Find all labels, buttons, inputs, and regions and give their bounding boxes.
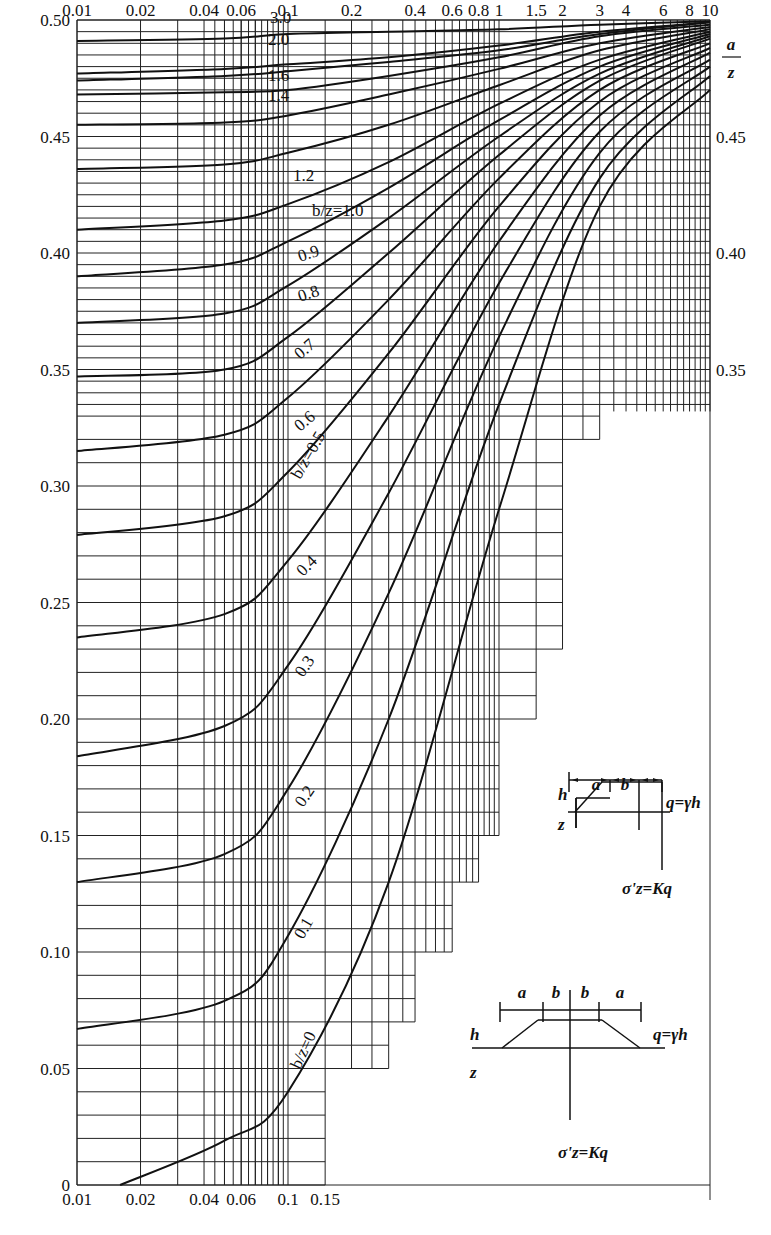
svg-text:0.35: 0.35 xyxy=(40,361,70,380)
svg-text:0.05: 0.05 xyxy=(40,1060,70,1079)
svg-text:0.04: 0.04 xyxy=(189,1190,219,1209)
svg-text:0.06: 0.06 xyxy=(226,1,256,20)
svg-text:a: a xyxy=(518,983,527,1002)
svg-text:b: b xyxy=(552,983,561,1002)
svg-text:0.02: 0.02 xyxy=(126,1190,156,1209)
curve-label: 1.4 xyxy=(268,86,290,105)
svg-text:q=γh: q=γh xyxy=(653,1025,688,1044)
svg-text:0.30: 0.30 xyxy=(40,477,70,496)
svg-text:4: 4 xyxy=(622,1,631,20)
svg-text:10: 10 xyxy=(702,1,719,20)
curve-label: 0.1 xyxy=(290,914,317,942)
svg-text:0.4: 0.4 xyxy=(404,1,426,20)
curve-b-z-1-6 xyxy=(77,25,710,95)
svg-text:z: z xyxy=(469,1063,477,1082)
svg-text:z: z xyxy=(557,815,565,834)
svg-text:0.04: 0.04 xyxy=(189,1,219,20)
curve-b-z-0-5 xyxy=(77,48,710,535)
svg-text:b: b xyxy=(621,775,630,794)
curve-b-z-0-7 xyxy=(77,39,710,377)
svg-text:1.5: 1.5 xyxy=(526,1,547,20)
svg-text:0.02: 0.02 xyxy=(126,1,156,20)
svg-text:0.25: 0.25 xyxy=(40,594,70,613)
curve-label: 1.6 xyxy=(268,66,289,85)
curve-b-z-2-0 xyxy=(77,22,710,73)
x-axis-label: a z xyxy=(722,35,741,82)
inset-full-embankment: a b b a h z q=γh σ'z=Kq xyxy=(469,983,688,1162)
svg-text:0.2: 0.2 xyxy=(341,1,362,20)
svg-text:σ'z=Kq: σ'z=Kq xyxy=(558,1143,609,1162)
curve-b-z-0-1 xyxy=(77,76,710,1029)
svg-text:6: 6 xyxy=(659,1,668,20)
inset-half-embankment: a b h z q=γh σ'z=Kq xyxy=(557,772,701,898)
svg-text:h: h xyxy=(470,1025,479,1044)
svg-text:h: h xyxy=(558,785,567,804)
curve-label: 1.2 xyxy=(293,166,314,185)
svg-text:0.15: 0.15 xyxy=(310,1190,340,1209)
svg-text:0: 0 xyxy=(62,1176,71,1195)
svg-text:0.40: 0.40 xyxy=(40,244,70,263)
curve-label: 0.9 xyxy=(295,241,321,266)
svg-text:2: 2 xyxy=(558,1,567,20)
curve-label: 0.2 xyxy=(291,782,319,810)
svg-text:b: b xyxy=(581,983,590,1002)
svg-text:0.50: 0.50 xyxy=(40,11,70,30)
svg-text:0.45: 0.45 xyxy=(40,128,70,147)
curve-label: b/z=1.0 xyxy=(312,201,364,220)
svg-text:3: 3 xyxy=(595,1,604,20)
influence-chart: 0.010.020.040.060.10.20.40.60.811.523468… xyxy=(0,0,771,1235)
svg-text:0.40: 0.40 xyxy=(716,244,746,263)
svg-text:0.06: 0.06 xyxy=(226,1190,256,1209)
curve-label: 3.0 xyxy=(270,8,291,27)
svg-text:a: a xyxy=(616,983,625,1002)
chart-grid xyxy=(77,20,710,1200)
svg-text:0.20: 0.20 xyxy=(40,710,70,729)
curve-label: 0.7 xyxy=(290,335,319,364)
curve-label: b/z=0 xyxy=(286,1028,320,1071)
svg-text:0.15: 0.15 xyxy=(40,827,70,846)
curve-label: 2.0 xyxy=(268,30,289,49)
svg-text:0.8: 0.8 xyxy=(468,1,489,20)
curve-label: b/z=0.5 xyxy=(287,428,329,482)
curve-b-z-0-4 xyxy=(77,53,710,638)
svg-text:q=γh: q=γh xyxy=(666,793,701,812)
axis-ticks: 0.010.020.040.060.10.20.40.60.811.523468… xyxy=(40,1,746,1209)
svg-text:1: 1 xyxy=(495,1,504,20)
svg-text:8: 8 xyxy=(685,1,694,20)
svg-text:0.45: 0.45 xyxy=(716,128,746,147)
svg-text:0.1: 0.1 xyxy=(277,1190,298,1209)
curve-b-z-0-2 xyxy=(77,67,710,883)
svg-text:a: a xyxy=(727,35,736,54)
svg-text:σ'z=Kq: σ'z=Kq xyxy=(622,879,673,898)
curve-label: 0.4 xyxy=(292,551,321,580)
curve-labels: 3.02.01.61.41.2b/z=1.00.90.80.70.6b/z=0.… xyxy=(268,8,364,1072)
svg-text:0.35: 0.35 xyxy=(716,361,746,380)
svg-text:0.6: 0.6 xyxy=(442,1,463,20)
svg-text:0.10: 0.10 xyxy=(40,943,70,962)
curve-label: 0.8 xyxy=(295,281,321,306)
svg-text:z: z xyxy=(727,63,735,82)
